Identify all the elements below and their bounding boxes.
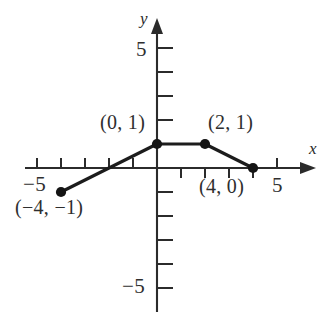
coordinate-plane (0, 0, 330, 317)
data-point-4-0 (248, 163, 258, 173)
x-tick-label-five: 5 (272, 175, 283, 196)
data-point-0-1 (152, 139, 162, 149)
label-point-neg4-neg1: (−4, −1) (15, 197, 83, 217)
x-axis-label: x (309, 140, 317, 157)
data-point-2-1 (200, 139, 210, 149)
label-point-4-0: (4, 0) (199, 176, 244, 196)
y-axis-label: y (140, 10, 148, 27)
label-point-0-1: (0, 1) (100, 112, 145, 132)
label-point-2-1: (2, 1) (208, 112, 253, 132)
y-tick-label-negative-five: −5 (122, 276, 145, 297)
x-tick-label-negative-five: −5 (23, 174, 46, 195)
y-axis (151, 18, 163, 312)
graph-figure: y x −5 5 5 −5 (0, 1) (2, 1) (4, 0) (−4, … (0, 0, 330, 317)
y-tick-label-five: 5 (136, 39, 147, 60)
